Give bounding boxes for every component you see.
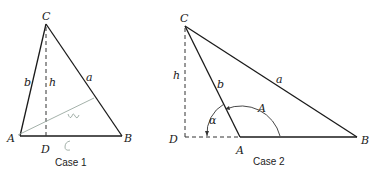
case2-label-h: h	[173, 69, 180, 82]
case2-label-A: A	[235, 144, 244, 157]
case1-label-B: B	[123, 132, 132, 145]
case1-pencil-scribble	[68, 114, 79, 118]
triangle-cases-diagram: C b h a A D B Case 1 C h b a α A D A B C…	[0, 0, 376, 174]
case1-label-A: A	[6, 132, 15, 145]
case1-label-C: C	[42, 10, 51, 23]
case2-figure: C h b a α A D A B Case 2	[168, 12, 369, 167]
case2-label-alpha: α	[209, 114, 217, 127]
case2-label-D: D	[168, 133, 178, 146]
case1-label-h: h	[49, 76, 56, 89]
case2-caption: Case 2	[253, 156, 285, 167]
case2-label-C: C	[180, 12, 189, 25]
case1-pencil-c	[65, 141, 70, 150]
case2-angle-A-arc	[226, 106, 280, 136]
case1-label-a: a	[86, 71, 93, 84]
case2-angle-alpha-arrow	[205, 131, 209, 136]
case2-label-B: B	[360, 134, 369, 147]
case2-label-a: a	[276, 73, 283, 86]
case1-side-a	[46, 24, 122, 136]
case1-label-b: b	[24, 76, 31, 89]
case1-figure: C b h a A D B Case 1	[6, 10, 132, 168]
case1-caption: Case 1	[55, 157, 87, 168]
case1-pencil-line	[18, 98, 94, 135]
case1-label-D: D	[40, 143, 50, 156]
case2-label-b: b	[217, 78, 224, 91]
case2-label-angle-A: A	[257, 102, 266, 115]
